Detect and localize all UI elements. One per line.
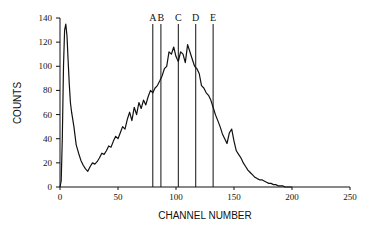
- marker-label-b: B: [158, 12, 165, 23]
- x-tick-label: 50: [114, 192, 124, 202]
- marker-label-c: C: [175, 12, 182, 23]
- x-tick-label: 0: [58, 192, 63, 202]
- marker-label-d: D: [192, 12, 199, 23]
- x-tick-label: 250: [343, 192, 357, 202]
- y-tick-label: 140: [39, 13, 53, 23]
- x-tick-label: 200: [285, 192, 299, 202]
- y-axis-label: COUNTS: [12, 82, 23, 125]
- x-tick-label: 150: [227, 192, 241, 202]
- y-tick-label: 120: [39, 37, 53, 47]
- marker-label-e: E: [210, 12, 216, 23]
- y-tick-label: 100: [39, 61, 53, 71]
- y-tick-label: 60: [43, 110, 53, 120]
- y-tick-label: 20: [43, 158, 53, 168]
- x-tick-label: 100: [169, 192, 183, 202]
- y-tick-label: 0: [48, 182, 53, 192]
- marker-label-a: A: [149, 12, 157, 23]
- spectrum-line: [60, 24, 292, 187]
- axes: 050100150200250020406080100120140: [39, 13, 358, 202]
- y-tick-label: 80: [43, 85, 53, 95]
- chart-canvas: 050100150200250020406080100120140 ABCDE …: [0, 0, 372, 229]
- x-axis-label: CHANNEL NUMBER: [158, 210, 252, 221]
- y-tick-label: 40: [43, 134, 53, 144]
- marker-lines: ABCDE: [149, 12, 216, 187]
